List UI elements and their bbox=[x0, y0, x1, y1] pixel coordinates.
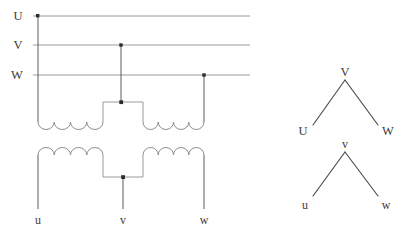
dot-w-bus bbox=[202, 73, 205, 76]
phasor-label-U: U bbox=[298, 124, 307, 138]
upper-left-coil bbox=[38, 122, 103, 130]
phasor-label-v: v bbox=[342, 137, 348, 151]
terminal-label-w: w bbox=[200, 213, 209, 227]
phasor-line-V-U bbox=[313, 80, 345, 125]
upper-bridge bbox=[103, 102, 143, 122]
upper-right-coil bbox=[143, 122, 204, 130]
lower-right-coil bbox=[143, 148, 204, 155]
terminal-label-W: W bbox=[11, 68, 23, 82]
terminal-label-V: V bbox=[13, 38, 22, 52]
terminal-label-U: U bbox=[13, 9, 22, 23]
phasor-line-v-u bbox=[313, 152, 345, 196]
upper-bridge-path bbox=[103, 102, 143, 122]
primary-drop-wires bbox=[38, 16, 204, 122]
phasor-label-w: w bbox=[382, 198, 391, 212]
upper-windings bbox=[38, 122, 204, 130]
secondary-vector-group: v u w bbox=[302, 137, 391, 212]
primary-terminal-labels: U V W bbox=[11, 9, 23, 82]
secondary-terminal-labels: u v w bbox=[35, 213, 209, 227]
lower-bridge-path bbox=[103, 155, 143, 177]
lower-windings bbox=[38, 148, 204, 155]
terminal-label-v: v bbox=[120, 213, 126, 227]
lower-bridge bbox=[103, 155, 143, 177]
diagram-canvas: U V W bbox=[0, 0, 410, 234]
primary-vector-group: V U W bbox=[298, 65, 394, 138]
secondary-drop-wires bbox=[38, 155, 204, 209]
phasor-label-W: W bbox=[382, 124, 394, 138]
dot-u-bus bbox=[36, 14, 39, 17]
dot-upper-bridge bbox=[119, 100, 123, 104]
primary-bus-lines bbox=[33, 16, 250, 75]
lower-left-coil bbox=[38, 148, 103, 155]
phasor-line-v-w bbox=[345, 152, 378, 196]
phasor-label-u: u bbox=[302, 198, 308, 212]
dot-lower-bridge bbox=[121, 175, 125, 179]
transformer-connection-diagram: U V W bbox=[0, 0, 410, 234]
dot-v-bus bbox=[119, 43, 122, 46]
phasor-label-V: V bbox=[340, 65, 349, 79]
terminal-label-u: u bbox=[35, 213, 41, 227]
phasor-line-V-W bbox=[345, 80, 378, 125]
